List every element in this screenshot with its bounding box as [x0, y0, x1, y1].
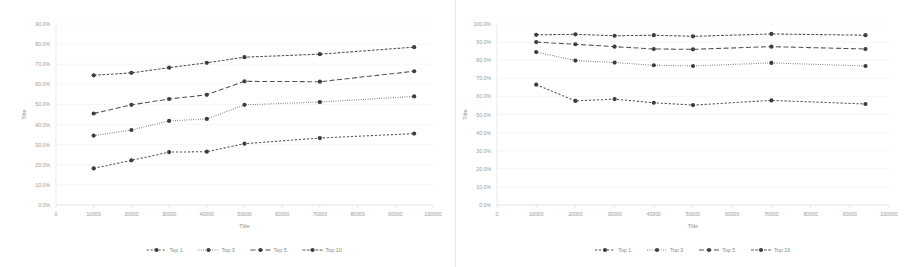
x-tick-label-10: 100000: [424, 211, 441, 217]
accuracy-vs-training-size-chart-right[interactable]: 0.0%10.0%20.0%30.0%40.0%50.0%60.0%70.0%8…: [455, 0, 911, 267]
data-point[interactable]: [613, 97, 617, 101]
data-point[interactable]: [863, 102, 867, 106]
data-point[interactable]: [691, 34, 695, 38]
legend-item-top-1[interactable]: Top 1: [147, 247, 183, 253]
data-point[interactable]: [205, 117, 209, 121]
legend-item-top-1[interactable]: Top 1: [595, 247, 631, 253]
data-point[interactable]: [863, 47, 867, 51]
legend-item-top-5[interactable]: Top 5: [251, 247, 287, 253]
legend-label: Top 1: [170, 247, 183, 253]
data-point[interactable]: [242, 55, 246, 59]
data-point[interactable]: [412, 69, 416, 73]
series-top-5[interactable]: [534, 40, 867, 51]
data-point[interactable]: [205, 150, 209, 154]
legend-item-top-5[interactable]: Top 5: [699, 247, 735, 253]
data-point[interactable]: [167, 119, 171, 123]
data-point[interactable]: [129, 128, 133, 132]
data-point[interactable]: [167, 66, 171, 70]
legend-swatch-marker: [655, 248, 659, 252]
data-point[interactable]: [613, 34, 617, 38]
data-point[interactable]: [129, 71, 133, 75]
accuracy-vs-training-size-chart-left[interactable]: 0.0%10.0%20.0%30.0%40.0%50.0%60.0%70.0%8…: [0, 0, 455, 267]
x-tick-label-5: 50000: [237, 211, 252, 217]
data-point[interactable]: [242, 142, 246, 146]
chart-panel-left[interactable]: 0.0%10.0%20.0%30.0%40.0%50.0%60.0%70.0%8…: [0, 0, 455, 267]
series-top-3[interactable]: [92, 94, 417, 137]
data-point[interactable]: [92, 73, 96, 77]
data-point[interactable]: [652, 101, 656, 105]
x-tick-label-4: 40000: [200, 211, 215, 217]
y-tick-label-3: 30.0%: [35, 142, 50, 148]
legend-label: Top 3: [222, 247, 235, 253]
data-point[interactable]: [652, 47, 656, 51]
y-tick-label-5: 50.0%: [35, 101, 50, 107]
data-point[interactable]: [691, 103, 695, 107]
data-point[interactable]: [691, 64, 695, 68]
data-point[interactable]: [769, 32, 773, 36]
data-point[interactable]: [769, 61, 773, 65]
y-tick-label-8: 80.0%: [476, 57, 491, 63]
series-top-10[interactable]: [534, 32, 867, 39]
data-point[interactable]: [863, 33, 867, 37]
legend[interactable]: Top 1Top 3Top 5Top 10: [595, 247, 790, 253]
data-point[interactable]: [691, 47, 695, 51]
data-point[interactable]: [318, 52, 322, 56]
data-point[interactable]: [769, 45, 773, 49]
data-point[interactable]: [92, 111, 96, 115]
data-point[interactable]: [205, 93, 209, 97]
legend-item-top-10[interactable]: Top 10: [751, 247, 790, 253]
data-point[interactable]: [412, 45, 416, 49]
data-point[interactable]: [573, 99, 577, 103]
data-point[interactable]: [412, 132, 416, 136]
legend-label: Top 5: [722, 247, 735, 253]
data-point[interactable]: [318, 136, 322, 140]
y-axis-ticks: 0.0%10.0%20.0%30.0%40.0%50.0%60.0%70.0%8…: [35, 21, 50, 208]
chart-panel-right[interactable]: 0.0%10.0%20.0%30.0%40.0%50.0%60.0%70.0%8…: [455, 0, 911, 267]
series-top-5[interactable]: [92, 69, 417, 115]
data-point[interactable]: [534, 83, 538, 87]
legend[interactable]: Top 1Top 3Top 5Top 10: [147, 247, 342, 253]
legend-item-top-3[interactable]: Top 3: [199, 247, 235, 253]
data-point[interactable]: [534, 50, 538, 54]
data-point[interactable]: [92, 134, 96, 138]
x-tick-label-2: 20000: [568, 211, 583, 217]
data-point[interactable]: [534, 33, 538, 37]
data-point[interactable]: [242, 79, 246, 83]
series-line: [536, 85, 865, 105]
data-point[interactable]: [573, 42, 577, 46]
data-point[interactable]: [92, 166, 96, 170]
data-point[interactable]: [573, 32, 577, 36]
series-top-10[interactable]: [92, 45, 417, 77]
y-tick-label-4: 40.0%: [476, 130, 491, 136]
data-point[interactable]: [167, 150, 171, 154]
x-axis-title: Title: [688, 223, 698, 229]
data-point[interactable]: [534, 40, 538, 44]
data-point[interactable]: [613, 45, 617, 49]
x-axis-ticks: 0100002000030000400005000060000700008000…: [496, 205, 898, 217]
x-tick-label-3: 30000: [162, 211, 177, 217]
y-tick-label-0: 0.0%: [38, 202, 50, 208]
data-point[interactable]: [318, 100, 322, 104]
data-point[interactable]: [613, 60, 617, 64]
data-point[interactable]: [318, 80, 322, 84]
data-point[interactable]: [242, 103, 246, 107]
data-point[interactable]: [573, 58, 577, 62]
series-line: [536, 52, 865, 66]
data-point[interactable]: [205, 61, 209, 65]
series-top-1[interactable]: [534, 83, 867, 108]
legend-item-top-10[interactable]: Top 10: [303, 247, 342, 253]
data-point[interactable]: [129, 103, 133, 107]
data-point[interactable]: [129, 158, 133, 162]
y-tick-label-2: 20.0%: [476, 166, 491, 172]
data-point[interactable]: [863, 64, 867, 68]
data-point[interactable]: [412, 94, 416, 98]
legend-item-top-3[interactable]: Top 3: [647, 247, 683, 253]
x-tick-label-5: 50000: [686, 211, 701, 217]
data-point[interactable]: [769, 98, 773, 102]
x-tick-label-0: 0: [496, 211, 499, 217]
y-axis-ticks: 0.0%10.0%20.0%30.0%40.0%50.0%60.0%70.0%8…: [473, 21, 491, 208]
data-point[interactable]: [167, 97, 171, 101]
series-top-3[interactable]: [534, 50, 867, 68]
data-point[interactable]: [652, 33, 656, 37]
data-point[interactable]: [652, 63, 656, 67]
